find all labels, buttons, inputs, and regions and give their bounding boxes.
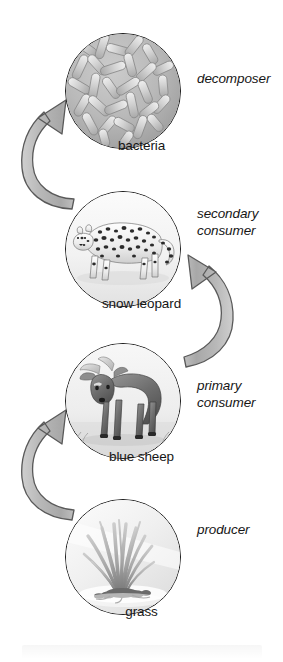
role-line: primary — [197, 377, 255, 394]
role-label-producer: producer — [197, 521, 249, 538]
arrow-snow-leopard-to-bacteria — [22, 100, 74, 209]
grass-caption: grass — [0, 604, 283, 619]
role-line: secondary — [197, 205, 258, 222]
role-line: consumer — [197, 394, 255, 411]
diagram-canvas: bacteria decomposer — [0, 0, 283, 662]
bacteria-circle-icon — [65, 33, 181, 149]
bacteria-caption: bacteria — [0, 138, 283, 153]
snow-leopard-caption: snow leopard — [0, 296, 283, 311]
role-label-primary-consumer: primary consumer — [197, 377, 255, 411]
snow-leopard-illustration — [66, 192, 180, 306]
blue-sheep-caption: blue sheep — [0, 449, 283, 464]
snow-leopard-circle-icon — [65, 191, 181, 307]
role-line: consumer — [197, 222, 258, 239]
arrow-blue-sheep-to-snow-leopard — [184, 255, 233, 367]
blue-sheep-illustration — [66, 344, 180, 458]
grass-illustration — [66, 500, 180, 614]
role-line: producer — [197, 521, 249, 538]
grass-circle-icon — [65, 499, 181, 615]
bottom-band — [22, 645, 262, 659]
role-label-secondary-consumer: secondary consumer — [197, 205, 258, 239]
role-line: decomposer — [197, 70, 270, 87]
role-label-decomposer: decomposer — [197, 70, 270, 87]
blue-sheep-circle-icon — [65, 343, 181, 459]
arrow-grass-to-blue-sheep — [22, 410, 74, 520]
bacteria-illustration — [66, 34, 180, 148]
